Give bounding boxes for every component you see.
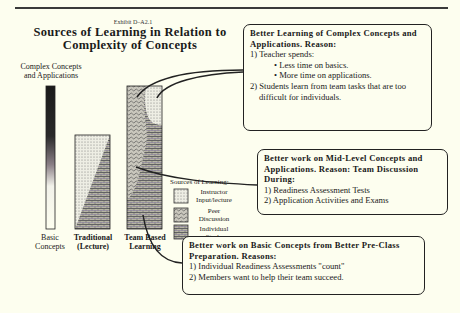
tbl-bar bbox=[127, 86, 162, 229]
axis-bottom-label: Basic Concepts bbox=[30, 233, 70, 251]
complexity-axis-bar bbox=[46, 86, 55, 229]
traditional-bar bbox=[75, 135, 110, 229]
legend-label-peer: Peer Discussion bbox=[186, 207, 242, 223]
callout-heading: Better work on Basic Concepts from Bette… bbox=[189, 240, 418, 261]
legend-label-instructor: Instructor Input/lecture bbox=[186, 188, 242, 204]
callout-heading: Better Learning of Complex Concepts and … bbox=[250, 28, 425, 49]
connector-complex-2 bbox=[157, 72, 243, 98]
callout-mid-level: Better work on Mid-Level Concepts and Ap… bbox=[257, 149, 448, 215]
callout-complex-concepts: Better Learning of Complex Concepts and … bbox=[243, 24, 432, 131]
bar-label-tbl: Team Based Learning bbox=[118, 233, 172, 251]
callout-heading: Better work on Mid-Level Concepts and Ap… bbox=[264, 153, 441, 185]
bar-label-traditional: Traditional (Lecture) bbox=[66, 233, 120, 251]
legend-title: Sources of Learning: bbox=[170, 178, 229, 186]
callout-basic-concepts: Better work on Basic Concepts from Bette… bbox=[182, 236, 425, 295]
